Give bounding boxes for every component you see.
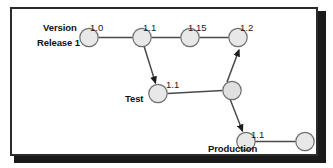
row-label-production: Production bbox=[208, 143, 257, 154]
column-header-version: Version bbox=[43, 22, 77, 33]
version-label-release1-1-2: 1.2 bbox=[240, 22, 253, 33]
figure-panel: Version Release 1 Test Production 1.0 1.… bbox=[10, 7, 318, 156]
version-label-production-1-1: 1.1 bbox=[251, 129, 264, 140]
node-production-next[interactable] bbox=[296, 132, 314, 150]
version-label-test-1-1: 1.1 bbox=[166, 79, 179, 90]
edge-t-merge-to-r1-120 bbox=[227, 50, 239, 82]
edge-t-110-to-t-merge bbox=[168, 91, 223, 94]
version-label-release1-1-1: 1.1 bbox=[143, 22, 156, 33]
version-label-release1-1-15: 1.15 bbox=[188, 22, 207, 33]
node-test-merge[interactable] bbox=[223, 81, 241, 99]
row-label-release1: Release 1 bbox=[37, 37, 80, 48]
edge-r1-110-to-t-110 bbox=[144, 46, 156, 83]
edge-t-merge-to-p-110 bbox=[230, 99, 243, 131]
node-test-1-1[interactable] bbox=[149, 84, 167, 102]
row-label-test: Test bbox=[125, 93, 143, 104]
version-label-release1-1-0: 1.0 bbox=[90, 22, 103, 33]
diagram-canvas: Version Release 1 Test Production 1.0 1.… bbox=[0, 0, 333, 168]
